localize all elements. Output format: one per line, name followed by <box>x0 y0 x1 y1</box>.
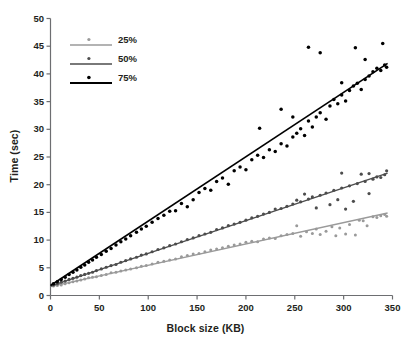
y-tick-label: 10 <box>20 234 44 245</box>
y-axis-title: Time (sec) <box>8 96 20 216</box>
x-tick-label: 150 <box>177 302 217 313</box>
y-tick-label: 15 <box>20 206 44 217</box>
y-tick-label: 20 <box>20 179 44 190</box>
legend-label-75pct: 75% <box>118 72 137 83</box>
legend-label-50pct: 50% <box>118 53 137 64</box>
y-tick-label: 30 <box>20 123 44 134</box>
x-tick-label: 100 <box>128 302 168 313</box>
data-series-layer <box>51 42 389 288</box>
tick-marks <box>47 19 393 300</box>
y-tick-label: 0 <box>20 290 44 301</box>
y-tick-label: 5 <box>20 262 44 273</box>
legend-label-25pct: 25% <box>118 34 137 45</box>
x-tick-label: 0 <box>31 302 71 313</box>
chart-figure: Block size (KB) Time (sec) 0501001502002… <box>0 0 411 344</box>
y-tick-label: 45 <box>20 40 44 51</box>
y-tick-label: 25 <box>20 151 44 162</box>
x-tick-label: 50 <box>79 302 119 313</box>
x-tick-label: 350 <box>373 302 411 313</box>
legend-swatches <box>70 38 112 83</box>
x-tick-label: 250 <box>275 302 315 313</box>
x-tick-label: 200 <box>226 302 266 313</box>
y-tick-label: 50 <box>20 13 44 24</box>
scatter-plot-canvas <box>0 0 411 344</box>
series-50pct <box>51 169 389 286</box>
y-tick-label: 40 <box>20 68 44 79</box>
x-axis-title: Block size (KB) <box>0 322 411 334</box>
x-tick-label: 300 <box>324 302 364 313</box>
series-25pct <box>51 213 389 288</box>
y-tick-label: 35 <box>20 96 44 107</box>
